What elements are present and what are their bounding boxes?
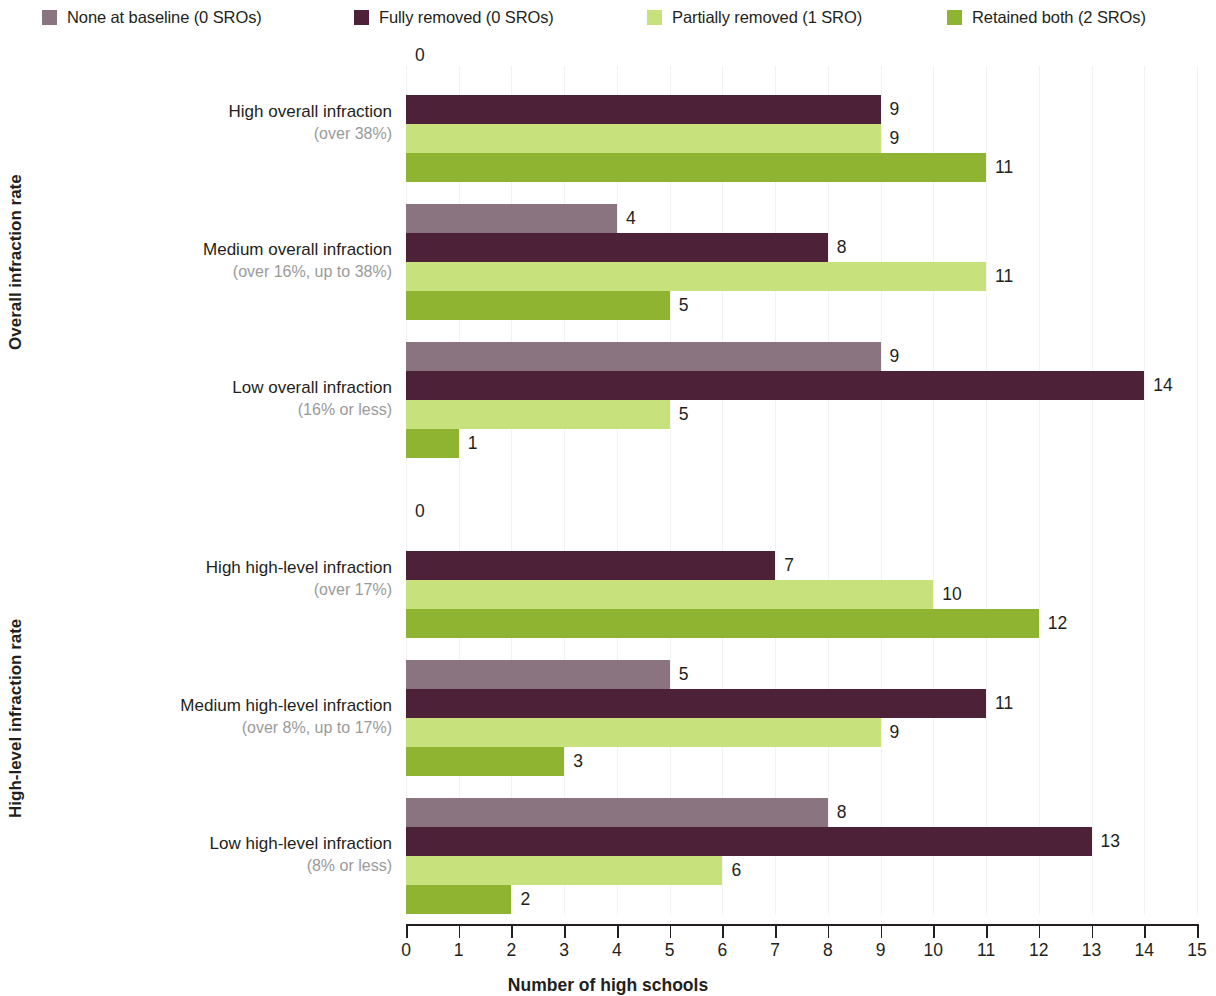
bar bbox=[406, 747, 564, 776]
legend-item-label: None at baseline (0 SROs) bbox=[67, 8, 262, 27]
x-axis-tick bbox=[775, 924, 777, 938]
gridline bbox=[1144, 66, 1145, 915]
legend-item-label: Retained both (2 SROs) bbox=[972, 8, 1146, 27]
x-axis-tick bbox=[933, 924, 935, 938]
category-label-main: Low high-level infraction bbox=[40, 833, 392, 855]
x-axis-tick-label: 7 bbox=[755, 940, 795, 961]
gridline bbox=[564, 66, 565, 915]
category-label-main: Medium high-level infraction bbox=[40, 695, 392, 717]
bar bbox=[406, 689, 986, 718]
bar bbox=[406, 124, 881, 153]
category-label-sub: (16% or less) bbox=[40, 399, 392, 420]
x-axis-tick-label: 14 bbox=[1124, 940, 1164, 961]
x-axis-tick-label: 15 bbox=[1177, 940, 1216, 961]
bar-value-label: 3 bbox=[564, 747, 583, 776]
category-label-main: High high-level infraction bbox=[40, 557, 392, 579]
chart-legend: None at baseline (0 SROs)Fully removed (… bbox=[0, 0, 1216, 38]
gridline bbox=[617, 66, 618, 915]
category-label-sub: (over 17%) bbox=[40, 579, 392, 600]
bar-value-label: 1 bbox=[459, 429, 478, 458]
legend-swatch-icon bbox=[647, 10, 662, 25]
bar bbox=[406, 660, 670, 689]
bar-value-label: 11 bbox=[986, 153, 1013, 182]
x-axis-tick bbox=[722, 924, 724, 938]
bar-value-label: 6 bbox=[722, 856, 741, 885]
bar-value-label: 12 bbox=[1039, 609, 1067, 638]
x-axis-tick bbox=[670, 924, 672, 938]
gridline bbox=[511, 66, 512, 915]
legend-item: Retained both (2 SROs) bbox=[947, 8, 1146, 27]
legend-item-label: Partially removed (1 SRO) bbox=[672, 8, 862, 27]
x-axis-tick-label: 2 bbox=[491, 940, 531, 961]
x-axis-tick bbox=[1039, 924, 1041, 938]
x-axis-tick bbox=[564, 924, 566, 938]
bar bbox=[406, 342, 881, 371]
gridline bbox=[1092, 66, 1093, 915]
bar-value-label: 4 bbox=[617, 204, 636, 233]
category-label-sub: (over 8%, up to 17%) bbox=[40, 717, 392, 738]
x-axis-line bbox=[406, 924, 1197, 926]
x-axis-tick-label: 5 bbox=[650, 940, 690, 961]
bar-value-label: 9 bbox=[881, 342, 900, 371]
section-axis-title: Overall infraction rate bbox=[6, 66, 26, 458]
category-label-sub: (over 16%, up to 38%) bbox=[40, 261, 392, 282]
legend-item-label: Fully removed (0 SROs) bbox=[379, 8, 554, 27]
legend-item: Fully removed (0 SROs) bbox=[354, 8, 554, 27]
bar bbox=[406, 856, 722, 885]
category-label-sub: (over 38%) bbox=[40, 123, 392, 144]
section-axis-title: High-level infraction rate bbox=[6, 522, 26, 914]
bar-value-label: 5 bbox=[670, 400, 689, 429]
bar bbox=[406, 551, 775, 580]
bar-value-label: 5 bbox=[670, 660, 689, 689]
legend-swatch-icon bbox=[42, 10, 57, 25]
x-axis-tick bbox=[1092, 924, 1094, 938]
x-axis-tick bbox=[1197, 924, 1199, 938]
category-label: High overall infraction(over 38%) bbox=[40, 101, 392, 145]
category-label-sub: (8% or less) bbox=[40, 855, 392, 876]
chart-area: 0991148115914510710125119381362 High ove… bbox=[0, 38, 1216, 969]
legend-item: Partially removed (1 SRO) bbox=[647, 8, 862, 27]
x-axis-tick bbox=[617, 924, 619, 938]
x-axis-tick bbox=[828, 924, 830, 938]
x-axis-title: Number of high schools bbox=[0, 975, 1216, 996]
x-axis-tick-label: 13 bbox=[1072, 940, 1112, 961]
category-label: Low high-level infraction(8% or less) bbox=[40, 833, 392, 877]
bar-value-label: 9 bbox=[881, 718, 900, 747]
x-axis-tick-label: 12 bbox=[1019, 940, 1059, 961]
gridline bbox=[933, 66, 934, 915]
gridline bbox=[670, 66, 671, 915]
x-axis-tick bbox=[511, 924, 513, 938]
x-axis-tick-label: 10 bbox=[913, 940, 953, 961]
bar bbox=[406, 233, 828, 262]
x-axis-tick-label: 0 bbox=[386, 940, 426, 961]
gridline bbox=[722, 66, 723, 915]
category-label-main: Medium overall infraction bbox=[40, 239, 392, 261]
x-axis-tick bbox=[406, 924, 408, 938]
bar bbox=[406, 827, 1092, 856]
bar bbox=[406, 718, 881, 747]
x-axis-tick bbox=[986, 924, 988, 938]
bar bbox=[406, 609, 1039, 638]
bar-value-label: 8 bbox=[828, 798, 847, 827]
bar bbox=[406, 262, 986, 291]
x-axis-tick-label: 4 bbox=[597, 940, 637, 961]
bar bbox=[406, 95, 881, 124]
x-axis-tick-label: 8 bbox=[808, 940, 848, 961]
category-label-main: Low overall infraction bbox=[40, 377, 392, 399]
x-axis-tick bbox=[1144, 924, 1146, 938]
bar-value-label: 7 bbox=[775, 551, 794, 580]
bar-value-label: 0 bbox=[406, 41, 425, 70]
bar-value-label: 13 bbox=[1092, 827, 1120, 856]
category-label: Low overall infraction(16% or less) bbox=[40, 377, 392, 421]
x-axis-tick-label: 1 bbox=[439, 940, 479, 961]
x-axis-tick-label: 11 bbox=[966, 940, 1006, 961]
gridline bbox=[881, 66, 882, 915]
x-axis-tick-label: 3 bbox=[544, 940, 584, 961]
bar bbox=[406, 400, 670, 429]
bar bbox=[406, 885, 511, 914]
bar-value-label: 2 bbox=[511, 885, 530, 914]
legend-item: None at baseline (0 SROs) bbox=[42, 8, 262, 27]
category-label: Medium high-level infraction(over 8%, up… bbox=[40, 695, 392, 739]
bar-value-label: 9 bbox=[881, 124, 900, 153]
bar-value-label: 14 bbox=[1144, 371, 1172, 400]
